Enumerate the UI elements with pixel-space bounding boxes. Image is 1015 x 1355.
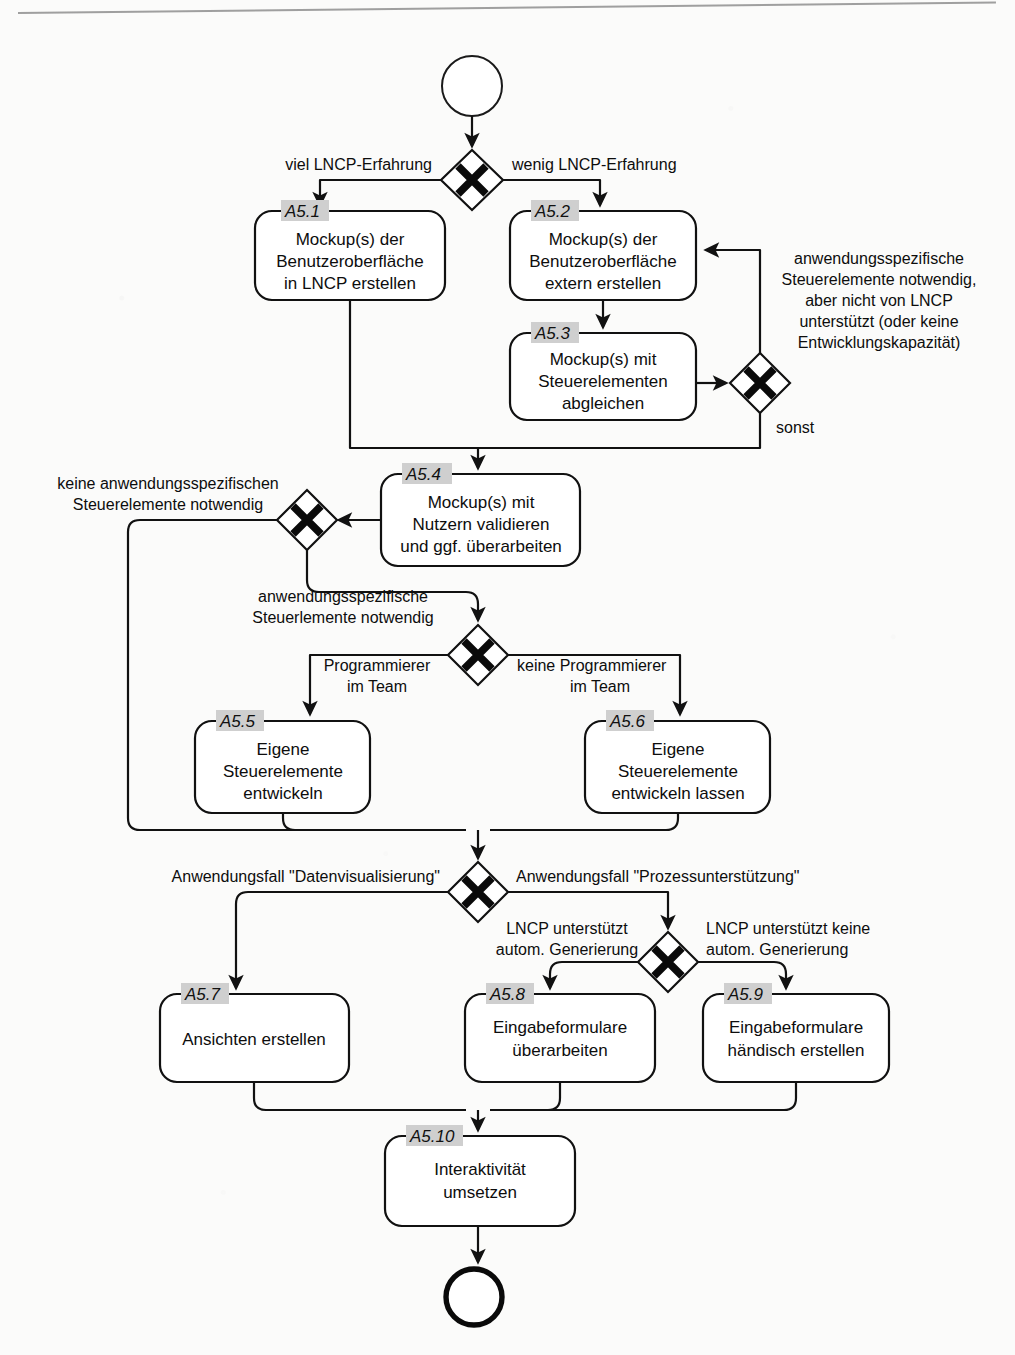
task-id-a55: A5.5 (219, 712, 256, 731)
task-id-a58: A5.8 (489, 985, 526, 1004)
task-a510-line-2: umsetzen (443, 1183, 517, 1202)
task-a56-line-2: Steuerelemente (618, 762, 738, 781)
annotation-line-1: anwendungsspezifische (794, 250, 964, 267)
task-a57-line-1: Ansichten erstellen (182, 1030, 326, 1049)
annotation-line-4: unterstützt (oder keine (799, 313, 958, 330)
edge-gw5-to-a57 (236, 892, 448, 988)
annotation-line-3: aber nicht von LNCP (805, 292, 953, 309)
gateway-programmierer-im-team (448, 625, 508, 685)
label-lncp-unterstuetzt-keine-2: autom. Generierung (706, 941, 848, 958)
task-a54-line-3: und ggf. überarbeiten (400, 537, 562, 556)
task-id-a52: A5.2 (534, 202, 571, 221)
label-keine-anwendungsspezifischen-1: keine anwendungsspezifischen (57, 475, 278, 492)
task-id-a51: A5.1 (284, 202, 320, 221)
task-a58-line-2: überarbeiten (512, 1041, 607, 1060)
flow-canvas: viel LNCP-Erfahrung wenig LNCP-Erfahrung… (0, 0, 1015, 1355)
edge-a56-to-merge (490, 813, 678, 830)
task-a53-line-2: Steuerelementen (538, 372, 667, 391)
label-viel-lncp-erfahrung: viel LNCP-Erfahrung (285, 156, 432, 173)
task-a59-line-2: händisch erstellen (727, 1041, 864, 1060)
task-a58: A5.8 Eingabeformulare überarbeiten (465, 983, 655, 1082)
label-anwendungsfall-prozessunterstuetzung: Anwendungsfall "Prozessunterstützung" (516, 868, 800, 885)
task-id-a56: A5.6 (609, 712, 646, 731)
label-programmierer-2: im Team (347, 678, 407, 695)
label-keine-programmierer-2: im Team (570, 678, 630, 695)
task-id-a54: A5.4 (405, 465, 441, 484)
end-event (446, 1269, 502, 1325)
label-anwendungsfall-datenvisualisierung: Anwendungsfall "Datenvisualisierung" (172, 868, 440, 885)
task-a55-line-3: entwickeln (243, 784, 322, 803)
edge-gw6-to-a58 (550, 962, 638, 988)
task-a55: A5.5 Eigene Steuerelemente entwickeln (195, 710, 370, 813)
task-a52-line-2: Benutzeroberfläche (529, 252, 676, 271)
label-keine-programmierer-1: keine Programmierer (517, 657, 667, 674)
task-a56: A5.6 Eigene Steuerelemente entwickeln la… (585, 710, 770, 813)
edge-gw2-loopback-to-a52 (706, 250, 760, 353)
task-a510-line-1: Interaktivität (434, 1160, 526, 1179)
task-a58-line-1: Eingabeformulare (493, 1018, 627, 1037)
annotation-line-2: Steuerelemente notwendig, (782, 271, 977, 288)
gateway-anwendungsspezifische-steuerelemente (277, 490, 337, 550)
task-id-a57: A5.7 (184, 985, 221, 1004)
task-id-a53: A5.3 (534, 324, 571, 343)
task-a52-line-3: extern erstellen (545, 274, 661, 293)
task-a510: A5.10 Interaktivität umsetzen (385, 1125, 575, 1226)
task-a51-line-2: Benutzeroberfläche (276, 252, 423, 271)
task-a54-line-1: Mockup(s) mit (428, 493, 535, 512)
gateway-autom-generierung (638, 932, 698, 992)
annotation-nicht-unterstuetzt: anwendungsspezifische Steuerelemente not… (782, 250, 977, 351)
task-a52: A5.2 Mockup(s) der Benutzeroberfläche ex… (510, 200, 696, 300)
task-a56-line-3: entwickeln lassen (611, 784, 744, 803)
edge-a51-to-merge (350, 300, 478, 448)
label-wenig-lncp-erfahrung: wenig LNCP-Erfahrung (511, 156, 677, 173)
label-lncp-unterstuetzt-keine-1: LNCP unterstützt keine (706, 920, 870, 937)
label-sonst: sonst (776, 419, 815, 436)
label-anwendungsspezifische-notwendig-2: Steuerlemente notwendig (252, 609, 433, 626)
task-id-a510: A5.10 (409, 1127, 455, 1146)
task-a53: A5.3 Mockup(s) mit Steuerelementen abgle… (510, 322, 696, 420)
task-a54: A5.4 Mockup(s) mit Nutzern validieren un… (381, 463, 580, 566)
task-a59: A5.9 Eingabeformulare händisch erstellen (703, 983, 889, 1082)
edge-a55-to-merge (283, 813, 466, 830)
task-a51-line-1: Mockup(s) der (296, 230, 405, 249)
start-event (442, 56, 502, 116)
edge-gw2-sonst-to-a54 (478, 413, 760, 468)
task-a51-line-3: in LNCP erstellen (284, 274, 416, 293)
label-programmierer-1: Programmierer (324, 657, 431, 674)
task-a54-line-2: Nutzern validieren (412, 515, 549, 534)
edge-a57-to-merge-bottom (254, 1082, 466, 1110)
task-a53-line-3: abgleichen (562, 394, 644, 413)
task-a53-line-1: Mockup(s) mit (550, 350, 657, 369)
edge-gw1-to-a51 (320, 180, 441, 205)
label-lncp-unterstuetzt-2: autom. Generierung (496, 941, 638, 958)
edge-a58-to-merge-bottom (490, 1082, 560, 1110)
task-a57: A5.7 Ansichten erstellen (160, 983, 349, 1082)
task-a55-line-2: Steuerelemente (223, 762, 343, 781)
task-a51: A5.1 Mockup(s) der Benutzeroberfläche in… (255, 200, 445, 300)
label-lncp-unterstuetzt-1: LNCP unterstützt (506, 920, 628, 937)
bpmn-diagram: viel LNCP-Erfahrung wenig LNCP-Erfahrung… (0, 0, 1015, 1355)
gateway-lncp-erfahrung (441, 150, 503, 210)
task-a56-line-1: Eigene (652, 740, 705, 759)
task-id-a59: A5.9 (727, 985, 764, 1004)
gateway-steuerelemente-unterstuetzt (730, 353, 790, 413)
task-a59-line-1: Eingabeformulare (729, 1018, 863, 1037)
label-anwendungsspezifische-notwendig-1: anwendungsspezifische (258, 588, 428, 605)
task-a55-line-1: Eigene (257, 740, 310, 759)
annotation-line-5: Entwicklungskapazität) (798, 334, 961, 351)
edge-a59-to-merge-bottom (490, 1082, 796, 1110)
gateway-anwendungsfall (448, 862, 508, 922)
label-keine-anwendungsspezifischen-2: Steuerelemente notwendig (73, 496, 263, 513)
task-a52-line-1: Mockup(s) der (549, 230, 658, 249)
